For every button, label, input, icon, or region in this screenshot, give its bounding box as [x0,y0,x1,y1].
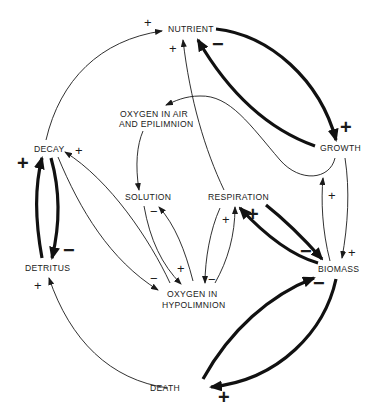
link-biomass-to-death [211,279,336,387]
node-nutrient: NUTRIENT [168,24,214,34]
causal-loop-diagram: NUTRIENT GROWTH OXYGEN IN AIR AND EPILIM… [0,0,374,419]
link-death-to-biomass [203,278,314,379]
link-growth-to-biomass [342,158,348,258]
node-solution: SOLUTION [125,192,171,202]
sign-biomass-growth: + [328,188,336,203]
sign-nutrient-growth: + [340,116,352,138]
node-decay: DECAY [34,144,64,154]
sign-biomass-death: + [218,386,230,408]
sign-death-biomass: − [313,272,325,294]
link-respiration-to-nutrient [183,40,224,190]
sign-decay-oxygen: − [150,271,158,286]
sign-respiration-nutrient: + [169,41,177,56]
node-oxygen-air-line2: AND EPILIMNION [119,119,193,129]
link-death-to-detritus [49,278,168,388]
link-detritus-to-decay [37,158,42,258]
link-nutrient-to-growth [216,29,336,140]
node-growth: GROWTH [320,143,361,153]
sign-detritus-decay: + [17,152,29,174]
sign-death-detritus: + [34,278,42,293]
node-oxygen-air-line1: OXYGEN IN AIR [120,109,188,119]
sign-decay-detritus: − [63,239,75,261]
link-decay-to-oxygen-hypo [58,157,158,290]
node-respiration: RESPIRATION [208,192,269,202]
sign-oxygen-solution: − [150,204,158,219]
link-oxygen-air-to-solution [137,131,143,190]
node-detritus: DETRITUS [25,263,70,273]
sign-solution-oxygen: + [177,261,185,276]
sign-oxygen-decay: + [75,143,83,158]
sign-oxygen-respiration: + [222,212,230,227]
sign-respiration-oxygen: − [208,272,216,287]
sign-decay-nutrient: + [144,15,152,30]
sign-biomass-respiration: + [247,203,259,225]
link-oxygen-hypo-to-solution [159,207,193,281]
link-decay-to-detritus [51,158,58,258]
sign-growth-nutrient: − [212,33,224,55]
sign-respiration-biomass: − [300,240,312,262]
sign-growth-biomass: + [348,245,356,260]
link-respiration-to-biomass [266,205,322,259]
link-growth-to-nutrient [198,40,315,146]
node-oxygen-hypo-line1: OXYGEN IN [167,289,217,299]
node-oxygen-hypo-line2: HYPOLIMNION [162,300,225,310]
